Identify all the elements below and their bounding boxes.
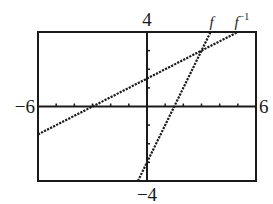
curve-label-f-inverse: f−1 — [234, 11, 249, 30]
x-max-label: 6 — [259, 96, 269, 117]
curve-label-f: f — [209, 14, 215, 30]
line-f-inverse — [38, 32, 238, 134]
curve-label-f-inverse-exponent: −1 — [239, 11, 250, 22]
graphing-calculator-plot: 4 −4 −6 6 f f−1 — [0, 0, 273, 204]
y-min-label: −4 — [137, 184, 158, 204]
y-max-label: 4 — [142, 9, 152, 30]
x-min-label: −6 — [15, 96, 35, 117]
